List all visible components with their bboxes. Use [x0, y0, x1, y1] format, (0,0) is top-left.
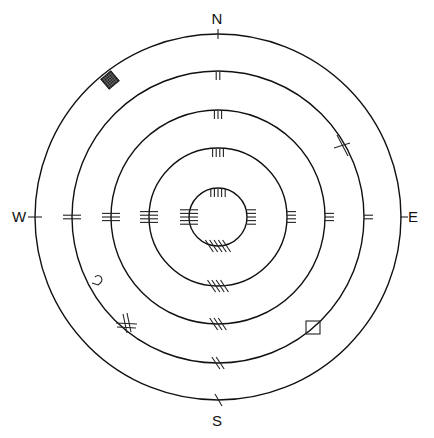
south-label: S [212, 412, 222, 429]
crossed-hash-icon [116, 313, 137, 333]
east-label: E [408, 208, 418, 225]
compass-ring-diagram: N S W E [0, 0, 434, 438]
cross-mark-icon [334, 135, 350, 156]
compass-tick-marks [28, 29, 408, 406]
concentric-rings [35, 34, 401, 400]
ring-1 [35, 34, 401, 400]
west-label: W [12, 208, 27, 225]
ring-3 [111, 110, 325, 324]
north-label: N [212, 10, 223, 27]
ring-ticks [63, 72, 373, 369]
compass-labels: N S W E [12, 10, 418, 429]
hook-icon [92, 276, 102, 286]
ring-4 [149, 148, 287, 286]
